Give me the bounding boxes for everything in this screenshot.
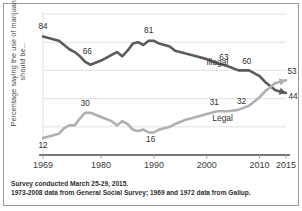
data-value-label: 53 (287, 67, 297, 76)
data-value-label: 84 (38, 22, 48, 31)
series-label-legal: Legal (212, 113, 233, 123)
footnote-line-1: Survey conducted March 25-29, 2015. (11, 180, 291, 189)
chart-plot-area: Percentage saying the use of marijuana s… (0, 0, 302, 175)
x-axis-tick-labels: 196919801990200020102015 (33, 160, 296, 170)
data-value-label: 66 (83, 47, 93, 56)
axis-ticks (39, 155, 290, 159)
series-label-illegal: Illegal (206, 57, 228, 67)
x-tick-label: 2000 (197, 160, 217, 170)
value-labels: 846681636044123016313253 (38, 22, 298, 151)
x-tick-label: 2015 (276, 160, 296, 170)
x-tick-label: 1990 (144, 160, 164, 170)
line-chart-svg: 846681636044123016313253 IllegalLegal 19… (0, 0, 302, 175)
x-tick-label: 1969 (33, 160, 53, 170)
data-value-label: 12 (38, 141, 48, 150)
data-value-label: 30 (81, 99, 91, 108)
data-value-label: 32 (237, 97, 247, 106)
chart-figure: Percentage saying the use of marijuana s… (0, 0, 302, 211)
data-value-label: 16 (146, 135, 156, 144)
data-value-label: 44 (288, 92, 298, 101)
data-value-label: 81 (144, 26, 154, 35)
series-lines (43, 37, 286, 139)
chart-footnote: Survey conducted March 25-29, 2015. 1973… (11, 180, 291, 197)
data-value-label: 60 (242, 57, 252, 66)
series-line-legal (43, 80, 286, 138)
footnote-line-2: 1973-2008 data from General Social Surve… (11, 189, 291, 198)
data-value-label: 31 (210, 98, 220, 107)
gridlines (43, 12, 286, 155)
x-tick-label: 2010 (250, 160, 270, 170)
x-tick-label: 1980 (91, 160, 111, 170)
